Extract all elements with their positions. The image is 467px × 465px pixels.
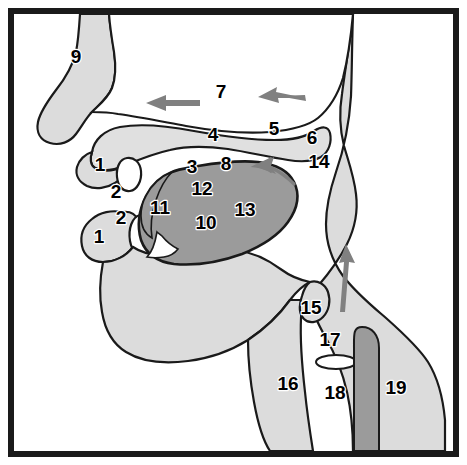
label-8: 8 [221, 153, 232, 174]
label-16: 16 [277, 373, 298, 394]
label-18: 18 [324, 382, 345, 403]
label-1-upper: 1 [95, 154, 106, 175]
label-10: 10 [195, 212, 216, 233]
label-14: 14 [308, 151, 330, 172]
label-11: 11 [150, 197, 171, 218]
label-19: 19 [385, 377, 406, 398]
label-17: 17 [319, 329, 340, 350]
label-9: 9 [71, 46, 82, 67]
label-3: 3 [187, 156, 198, 177]
label-13: 13 [234, 199, 255, 220]
label-4: 4 [208, 124, 219, 145]
label-15: 15 [300, 297, 322, 318]
label-1-lower: 1 [94, 226, 105, 247]
label-7: 7 [216, 81, 227, 102]
label-12: 12 [191, 178, 212, 199]
vocal-tract-illustration: 1 2 2 1 3 4 5 6 7 8 9 10 11 12 13 14 15 … [0, 0, 467, 465]
nasal-cavity-outline [92, 14, 353, 133]
vocal-tract-diagram: 1 2 2 1 3 4 5 6 7 8 9 10 11 12 13 14 15 … [0, 0, 467, 465]
label-2-upper: 2 [111, 181, 122, 202]
label-5: 5 [269, 118, 280, 139]
label-2-lower: 2 [116, 207, 127, 228]
label-6: 6 [307, 127, 318, 148]
vocal-folds-glottis [316, 355, 356, 369]
trachea-cartilage [354, 327, 379, 451]
